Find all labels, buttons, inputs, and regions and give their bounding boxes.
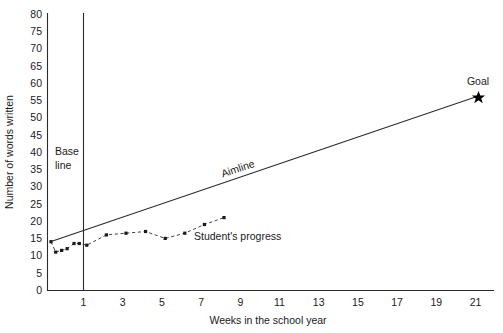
x-tick-label: 15	[352, 296, 364, 308]
y-tick-label: 70	[30, 42, 42, 54]
y-tick-label: 55	[30, 94, 42, 106]
data-point-marker	[124, 232, 127, 235]
baseline-label-line1: Base	[55, 145, 79, 157]
x-tick-label: 19	[430, 296, 442, 308]
y-tick-label: 10	[30, 249, 42, 261]
y-tick-labels: 80 75 70 65 60 55 50 45 40 35 30 25 20 1…	[30, 8, 42, 296]
data-point-marker	[222, 216, 225, 219]
y-tick-label: 0	[36, 284, 42, 296]
student-progress-label: Student's progress	[194, 230, 281, 242]
y-tick-label: 65	[30, 60, 42, 72]
y-tick-label: 40	[30, 146, 42, 158]
x-tick-label: 9	[237, 296, 243, 308]
y-tick-label: 35	[30, 163, 42, 175]
data-point-marker	[60, 249, 63, 252]
data-point-marker	[66, 247, 69, 250]
x-tick-label: 17	[391, 296, 403, 308]
x-tick-label: 7	[198, 296, 204, 308]
data-point-marker	[72, 242, 75, 245]
y-tick-label: 30	[30, 180, 42, 192]
y-tick-label: 20	[30, 215, 42, 227]
data-point-marker	[183, 232, 186, 235]
x-tick-label: 13	[313, 296, 325, 308]
chart-canvas: 80 75 70 65 60 55 50 45 40 35 30 25 20 1…	[0, 0, 503, 333]
data-point-marker	[54, 251, 57, 254]
y-tick-label: 75	[30, 25, 42, 37]
data-point-marker	[203, 223, 206, 226]
x-axis-title: Weeks in the school year	[209, 314, 327, 326]
y-tick-label: 15	[30, 232, 42, 244]
y-tick-label: 5	[36, 267, 42, 279]
y-tick-label: 80	[30, 8, 42, 20]
x-tick-label: 11	[274, 296, 285, 308]
x-tick-label: 5	[159, 296, 165, 308]
data-point-marker	[85, 244, 88, 247]
aimline-label: Aimline	[219, 157, 256, 179]
data-point-marker	[49, 240, 52, 243]
x-tick-label: 3	[120, 296, 126, 308]
y-tick-label: 50	[30, 111, 42, 123]
y-tick-label: 25	[30, 198, 42, 210]
goal-label: Goal	[467, 75, 489, 87]
data-point-marker	[144, 230, 147, 233]
x-tick-label: 1	[81, 296, 87, 308]
y-tick-label: 60	[30, 77, 42, 89]
x-tick-labels: 1 3 5 7 9 11 13 15 17 19 21	[81, 296, 482, 308]
progress-monitoring-chart: 80 75 70 65 60 55 50 45 40 35 30 25 20 1…	[0, 0, 503, 333]
baseline-label-line2: line	[55, 159, 72, 171]
data-point-marker	[164, 237, 167, 240]
y-tick-label: 45	[30, 129, 42, 141]
y-axis-title: Number of words written	[3, 95, 15, 209]
data-point-marker	[78, 242, 81, 245]
x-tick-label: 21	[470, 296, 482, 308]
data-point-marker	[105, 233, 108, 236]
aimline-series	[50, 97, 475, 242]
